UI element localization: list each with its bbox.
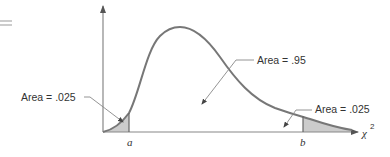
left-area-label: Area = .025 [21, 91, 76, 103]
center-area-label: Area = .95 [257, 54, 306, 66]
x-axis-superscript: 2 [370, 122, 375, 131]
point-b-label: b [300, 136, 306, 148]
point-a-label: a [127, 136, 133, 148]
equals-sign-fragment [0, 21, 12, 25]
right-area-label: Area = .025 [315, 103, 370, 115]
x-axis-label: χ [361, 127, 368, 139]
chi-square-diagram: Area = .025 Area = .95 Area = .025 a b χ… [0, 0, 390, 157]
left-tail-shade [103, 113, 129, 132]
density-curve [103, 27, 352, 132]
